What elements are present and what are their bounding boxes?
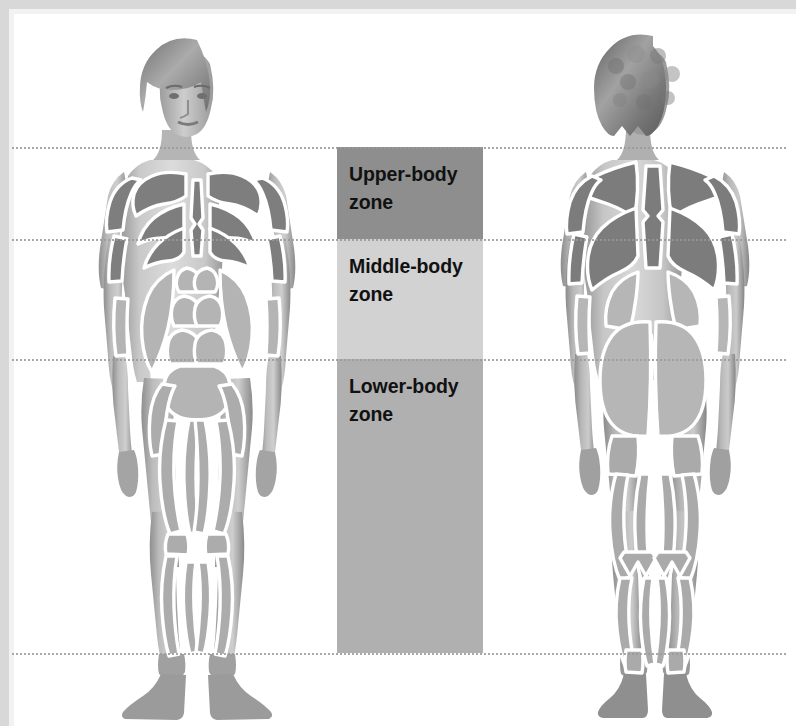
zone-lower-body-label-line1: Lower-body xyxy=(349,372,483,400)
zone-lower-body-label-line2: zone xyxy=(349,400,483,428)
back-head xyxy=(594,35,680,137)
back-muscles-lower xyxy=(608,436,703,673)
figure-front-anterior xyxy=(62,22,332,722)
zone-bar: Upper-body zone Middle-body zone Lower-b… xyxy=(337,147,483,653)
boundary-line-chest xyxy=(12,239,786,241)
boundary-line-hips xyxy=(12,359,786,361)
zone-lower-body: Lower-body zone xyxy=(337,359,483,653)
boundary-line-shoulders xyxy=(12,147,786,149)
front-head xyxy=(140,38,213,137)
zone-middle-body-label-line1: Middle-body xyxy=(349,252,483,280)
figure-back-posterior xyxy=(520,22,786,722)
frame-border-left xyxy=(0,0,9,726)
zone-upper-body-label-line2: zone xyxy=(349,188,483,216)
frame-inner-left xyxy=(9,9,14,726)
diagram-canvas: Upper-body zone Middle-body zone Lower-b… xyxy=(0,0,796,726)
frame-border-top xyxy=(0,0,796,9)
zone-middle-body-label-line2: zone xyxy=(349,280,483,308)
zone-middle-body: Middle-body zone xyxy=(337,239,483,359)
zone-upper-body: Upper-body zone xyxy=(337,147,483,239)
boundary-line-ankles xyxy=(12,653,786,655)
frame-inner-top xyxy=(9,9,796,14)
zone-upper-body-label-line1: Upper-body xyxy=(349,160,483,188)
